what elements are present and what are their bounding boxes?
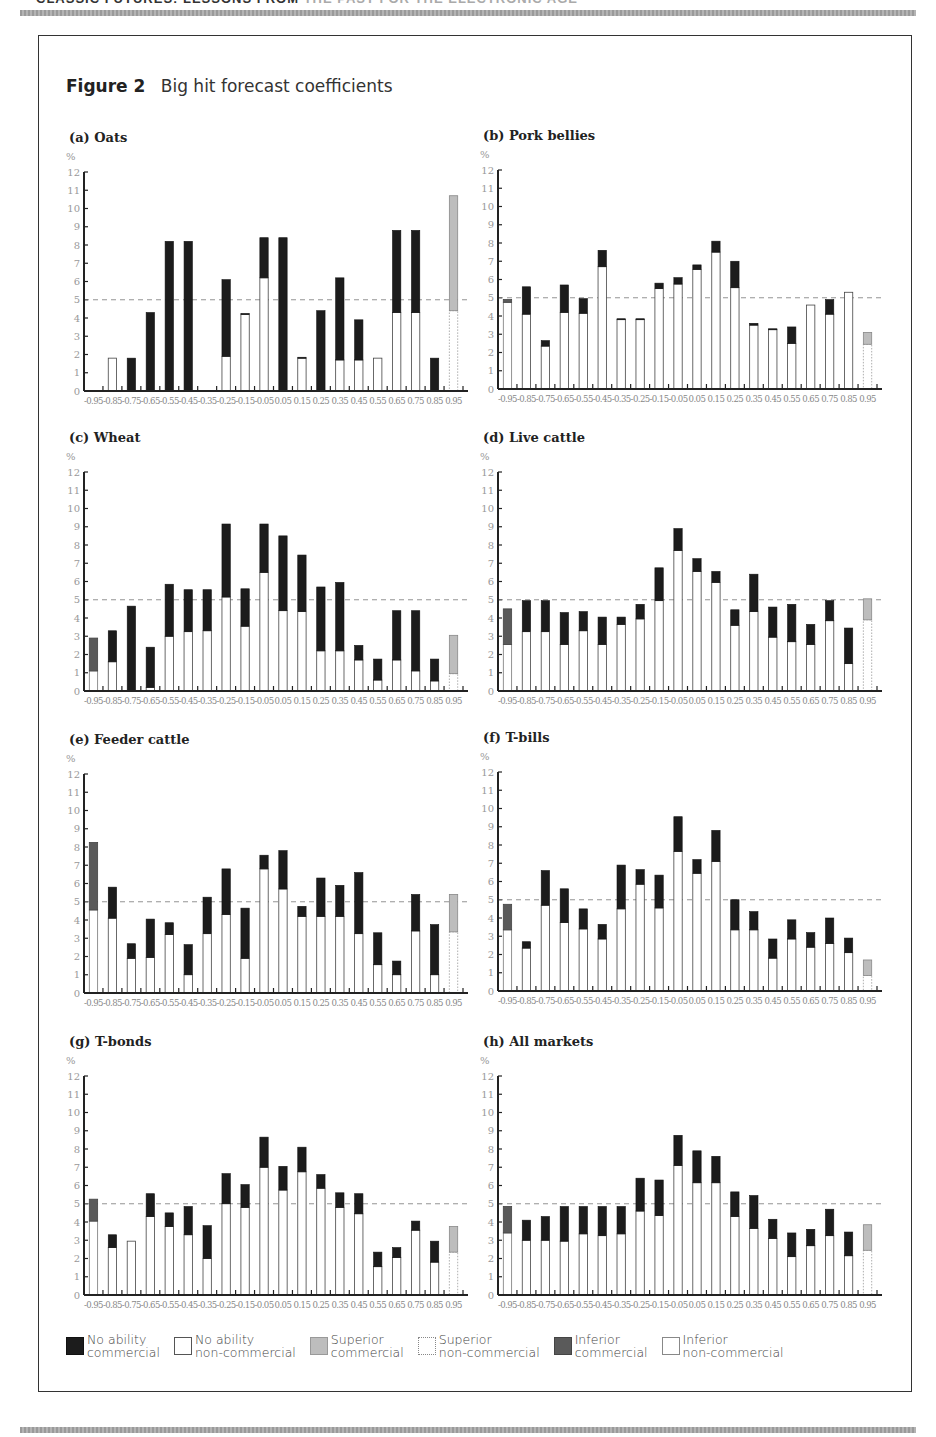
x-tick-label: -0.45 xyxy=(179,1300,198,1310)
bar--0.45 xyxy=(598,617,606,691)
bar-0.75 xyxy=(411,611,419,691)
bar--0.05 xyxy=(674,1135,682,1295)
bar-0.05 xyxy=(279,851,287,993)
y-tick-label: 11 xyxy=(67,185,80,196)
x-tick-label: -0.05 xyxy=(255,998,274,1008)
x-tick-label: 0.15 xyxy=(294,998,311,1008)
bar--0.15 xyxy=(655,568,663,691)
bar-0.65 xyxy=(393,961,401,993)
y-tick-label: 10 xyxy=(67,805,80,816)
bar--0.65 xyxy=(560,889,568,991)
bar-0.65 xyxy=(807,305,815,389)
x-tick-label: -0.95 xyxy=(84,1300,103,1310)
x-tick-label: -0.55 xyxy=(160,1300,179,1310)
chart-plot: %0123456789101112-0.95-0.85-0.75-0.65-0.… xyxy=(466,730,886,1010)
x-tick-label: 0.45 xyxy=(350,998,367,1008)
y-tick-label: 7 xyxy=(74,258,80,269)
bar--0.95 xyxy=(503,904,511,991)
bar-0.95 xyxy=(863,332,871,389)
legend-label-line2: non-commercial xyxy=(683,1346,784,1359)
x-tick-label: -0.35 xyxy=(198,696,217,706)
bar--0.55 xyxy=(579,612,587,691)
bar--0.35 xyxy=(617,617,625,691)
x-tick-label: -0.85 xyxy=(103,696,122,706)
x-tick-label: -0.55 xyxy=(160,396,179,406)
legend-item-inferior-noncommercial: Inferiornon-commercial xyxy=(662,1328,784,1364)
bar--0.65 xyxy=(560,285,568,389)
y-tick-label: 3 xyxy=(74,933,80,944)
bar-0.75 xyxy=(825,300,833,389)
y-tick-label: 9 xyxy=(74,1125,80,1136)
x-tick-label: 0.85 xyxy=(840,696,857,706)
bar--0.95 xyxy=(89,842,97,993)
x-tick-label: -0.35 xyxy=(612,996,631,1006)
x-tick-label: 0.05 xyxy=(275,1300,292,1310)
bar-0.95 xyxy=(449,894,457,993)
chart-plot: %0123456789101112-0.95-0.85-0.75-0.65-0.… xyxy=(52,430,472,710)
x-tick-label: 0.05 xyxy=(689,394,706,404)
x-tick-label: -0.55 xyxy=(160,998,179,1008)
y-tick-label: 0 xyxy=(74,386,80,397)
x-tick-label: -0.45 xyxy=(179,998,198,1008)
bar-0.25 xyxy=(731,261,739,389)
bar--0.85 xyxy=(522,287,530,389)
bar--0.85 xyxy=(108,631,116,691)
x-tick-label: 0.95 xyxy=(859,996,876,1006)
y-tick-label: 0 xyxy=(74,1290,80,1301)
bar-0.45 xyxy=(355,873,363,993)
bar-0.45 xyxy=(355,1194,363,1295)
y-tick-label: 4 xyxy=(74,313,80,324)
x-tick-label: -0.25 xyxy=(217,998,236,1008)
y-tick-label: 1 xyxy=(488,667,494,678)
bar-0.95 xyxy=(449,635,457,691)
y-tick-label: 0 xyxy=(488,384,494,395)
y-tick-label: 6 xyxy=(74,1180,80,1191)
x-tick-label: 0.25 xyxy=(313,998,330,1008)
bar-0.15 xyxy=(298,906,306,993)
bar-0.75 xyxy=(411,230,419,391)
bar--0.95 xyxy=(89,638,97,691)
legend-label-line2: commercial xyxy=(575,1346,648,1359)
y-tick-label: 0 xyxy=(74,686,80,697)
bar--0.85 xyxy=(108,358,116,391)
figure-caption: Big hit forecast coefficients xyxy=(161,76,393,96)
y-tick-label: 9 xyxy=(74,221,80,232)
bar--0.75 xyxy=(127,1241,135,1295)
bar--0.25 xyxy=(222,869,230,993)
x-tick-label: 0.85 xyxy=(426,1300,443,1310)
x-tick-label: -0.35 xyxy=(612,394,631,404)
y-tick-label: 11 xyxy=(67,1089,80,1100)
x-tick-label: 0.95 xyxy=(445,396,462,406)
x-tick-label: 0.35 xyxy=(331,696,348,706)
bar--0.75 xyxy=(127,944,135,993)
x-tick-label: -0.65 xyxy=(141,696,160,706)
x-tick-label: -0.25 xyxy=(217,396,236,406)
x-tick-label: 0.65 xyxy=(388,396,405,406)
bar-0.65 xyxy=(807,624,815,691)
x-tick-label: -0.95 xyxy=(84,998,103,1008)
bar-0.05 xyxy=(279,238,287,391)
y-tick-label: 9 xyxy=(488,219,494,230)
y-tick-label: 12 xyxy=(67,467,80,478)
bar--0.75 xyxy=(541,1217,549,1295)
x-tick-label: -0.95 xyxy=(84,396,103,406)
bar--0.45 xyxy=(598,1206,606,1295)
bar--0.55 xyxy=(579,299,587,389)
bar--0.15 xyxy=(655,875,663,991)
y-tick-label: 4 xyxy=(488,613,494,624)
y-tick-label: 9 xyxy=(488,821,494,832)
bar-0.55 xyxy=(374,358,382,391)
y-tick-label: 1 xyxy=(488,967,494,978)
legend-item-no-ability-commercial: No abilitycommercial xyxy=(66,1328,160,1364)
figure-title: Figure 2 Big hit forecast coefficients xyxy=(66,76,393,96)
bar-0.55 xyxy=(788,327,796,389)
y-tick-label: 8 xyxy=(488,840,494,851)
bar-0.65 xyxy=(807,1229,815,1295)
bar-0.95 xyxy=(863,599,871,691)
x-tick-label: -0.85 xyxy=(103,1300,122,1310)
x-tick-label: -0.65 xyxy=(141,396,160,406)
y-tick-label: 10 xyxy=(481,1107,494,1118)
bar--0.25 xyxy=(222,524,230,691)
x-tick-label: 0.05 xyxy=(275,396,292,406)
bar-0.35 xyxy=(750,1196,758,1295)
